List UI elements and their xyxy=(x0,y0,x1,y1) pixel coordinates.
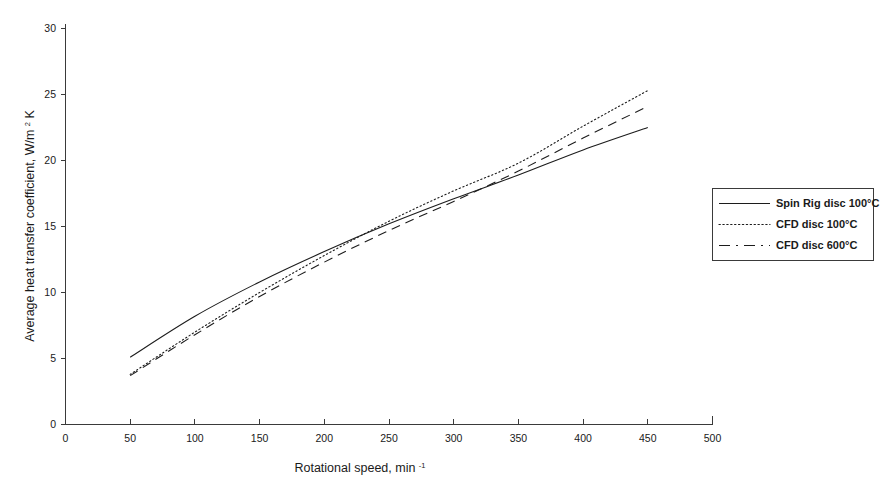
y-tick-label: 5 xyxy=(50,352,56,364)
x-tick-label: 100 xyxy=(186,432,204,444)
x-tick-label: 150 xyxy=(251,432,269,444)
y-tick-label: 25 xyxy=(44,88,56,100)
y-axis-title-tail: K xyxy=(23,110,37,119)
line-chart: 0 5 10 15 20 25 xyxy=(0,0,888,490)
y-tick-label: 15 xyxy=(44,220,56,232)
x-tick-label: 50 xyxy=(124,432,136,444)
y-axis-title-text: Average heat transfer coefficient, W/m xyxy=(23,130,37,342)
y-tick-label: 10 xyxy=(44,286,56,298)
x-tick-label: 450 xyxy=(639,432,657,444)
legend-label: CFD disc 600°C xyxy=(776,239,857,251)
x-tick-label: 0 xyxy=(63,432,69,444)
y-tick-label: 0 xyxy=(50,418,56,430)
y-axis-title-sup: 2 xyxy=(23,122,32,126)
x-tick-label: 500 xyxy=(704,432,722,444)
x-axis-title-sup: -1 xyxy=(419,461,426,470)
x-tick-label: 300 xyxy=(445,432,463,444)
x-axis-title-text: Rotational speed, min xyxy=(294,461,415,475)
y-tick-label: 20 xyxy=(44,154,56,166)
x-axis-title: Rotational speed, min -1 xyxy=(294,461,425,475)
x-tick-label: 250 xyxy=(380,432,398,444)
chart-figure: 0 5 10 15 20 25 xyxy=(0,0,888,490)
x-tick-label: 400 xyxy=(574,432,592,444)
x-tick-label: 200 xyxy=(316,432,334,444)
legend-label: Spin Rig disc 100°C xyxy=(776,197,879,209)
legend-label: CFD disc 100°C xyxy=(776,218,857,230)
x-tick-label: 350 xyxy=(510,432,528,444)
y-tick-label: 30 xyxy=(44,22,56,34)
